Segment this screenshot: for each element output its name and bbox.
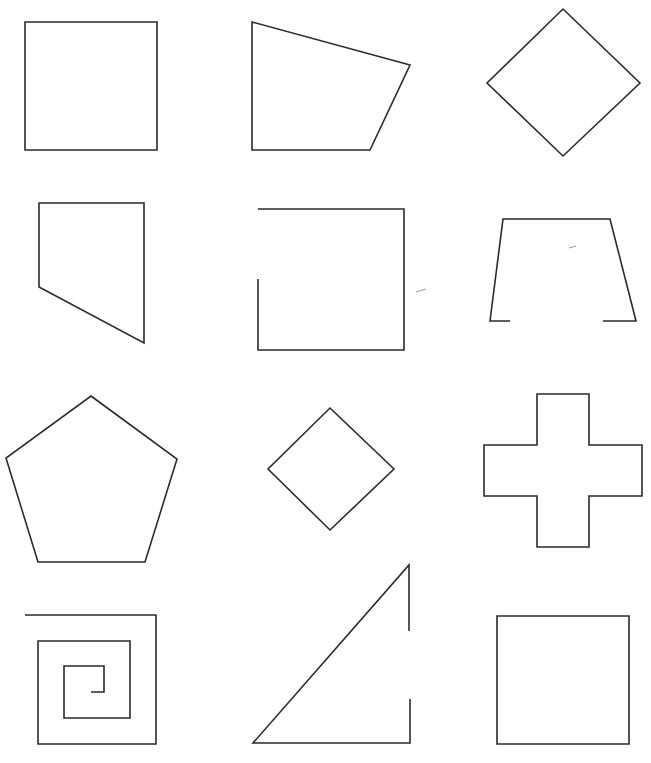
shape-diamond-large <box>487 9 640 156</box>
shapes-group <box>6 9 642 744</box>
shape-right-trapezoid-pentagon <box>39 203 144 343</box>
shapes-canvas <box>0 0 651 763</box>
shape-pentagon <box>6 396 177 562</box>
shape-cross <box>484 394 642 547</box>
shape-open-triangle <box>253 565 410 743</box>
shape-irregular-quadrilateral <box>252 22 410 150</box>
speck-dash-trapezoid-inner <box>569 246 576 248</box>
shape-open-trapezoid <box>490 219 636 321</box>
shape-open-square <box>258 209 404 350</box>
shape-square-spiral <box>25 615 156 744</box>
speck-dash-mid-right <box>416 289 426 292</box>
shape-square-top-left <box>25 22 157 150</box>
shape-square-bottom-right <box>497 616 629 744</box>
shape-diamond-small <box>268 408 394 530</box>
